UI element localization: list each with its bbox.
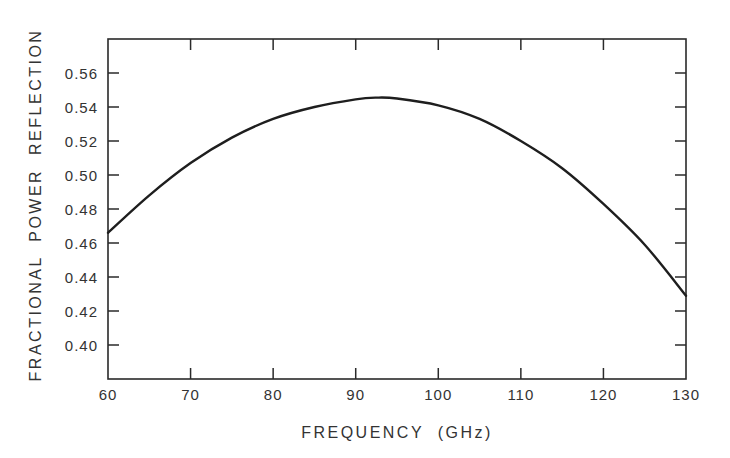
x-axis-title: FREQUENCY (GHz) bbox=[301, 424, 493, 441]
x-tick-label: 70 bbox=[181, 386, 200, 403]
y-tick-label: 0.42 bbox=[65, 303, 98, 320]
y-tick-label: 0.40 bbox=[65, 337, 98, 354]
chart: 60708090100110120130 0.400.420.440.460.4… bbox=[0, 0, 730, 458]
x-axis-ticks bbox=[191, 39, 604, 379]
x-tick-label: 110 bbox=[507, 386, 534, 403]
y-axis-tick-labels: 0.400.420.440.460.480.500.520.540.56 bbox=[65, 65, 98, 354]
x-tick-label: 60 bbox=[99, 386, 118, 403]
x-tick-label: 130 bbox=[672, 386, 700, 403]
x-axis-tick-labels: 60708090100110120130 bbox=[99, 386, 700, 403]
x-tick-label: 90 bbox=[346, 386, 365, 403]
plot-area-frame bbox=[108, 39, 686, 379]
y-tick-label: 0.56 bbox=[65, 65, 98, 82]
x-tick-label: 80 bbox=[264, 386, 283, 403]
y-tick-label: 0.54 bbox=[65, 99, 98, 116]
y-tick-label: 0.50 bbox=[65, 167, 98, 184]
y-axis-ticks bbox=[108, 73, 686, 345]
data-curve bbox=[108, 98, 686, 296]
y-tick-label: 0.52 bbox=[65, 133, 98, 150]
x-tick-label: 100 bbox=[424, 386, 452, 403]
y-axis-title: FRACTIONAL POWER REFLECTION bbox=[27, 29, 44, 382]
y-tick-label: 0.48 bbox=[65, 201, 98, 218]
y-tick-label: 0.44 bbox=[65, 269, 98, 286]
y-tick-label: 0.46 bbox=[65, 235, 98, 252]
x-tick-label: 120 bbox=[589, 386, 617, 403]
